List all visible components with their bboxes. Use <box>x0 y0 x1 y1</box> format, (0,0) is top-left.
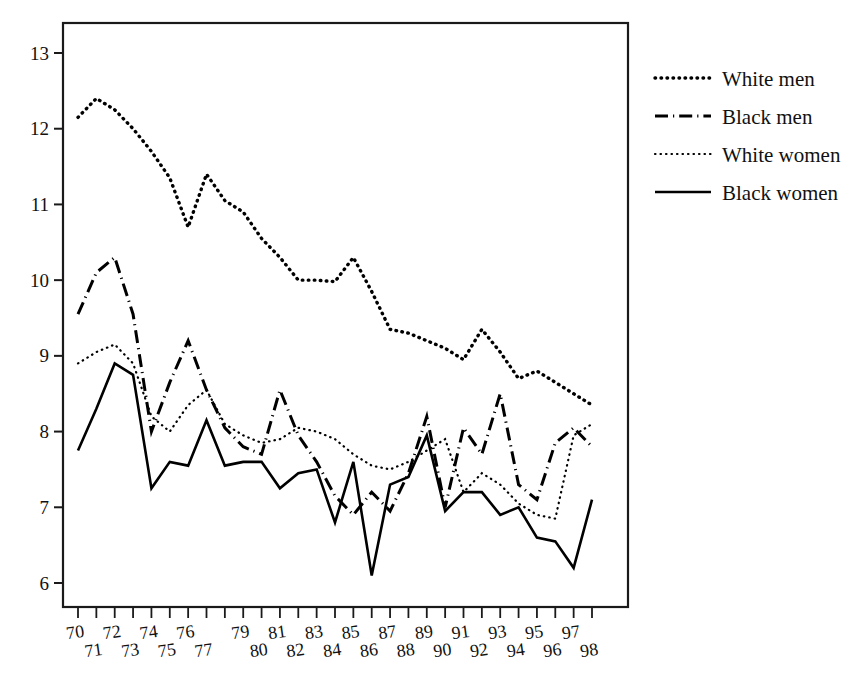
x-tick-label-97: 97 <box>561 621 582 643</box>
x-tick-label-73: 73 <box>120 639 141 661</box>
x-tick-label-81: 81 <box>267 621 288 643</box>
x-tick-label-75: 75 <box>157 639 178 661</box>
legend-label-black-men: Black men <box>722 105 813 129</box>
x-tick-label-91: 91 <box>450 621 471 643</box>
y-tick-label-11: 11 <box>31 194 49 215</box>
x-tick-label-80: 80 <box>248 639 269 661</box>
x-tick-label-88: 88 <box>395 639 416 661</box>
x-tick-label-76: 76 <box>175 621 196 643</box>
x-tick-label-92: 92 <box>469 639 490 661</box>
x-tick-label-85: 85 <box>340 621 361 643</box>
x-tick-label-96: 96 <box>542 639 563 661</box>
x-tick-label-93: 93 <box>487 621 508 643</box>
x-tick-label-98: 98 <box>579 639 600 661</box>
y-tick-label-10: 10 <box>30 270 49 291</box>
y-tick-label-6: 6 <box>40 573 50 594</box>
x-tick-label-87: 87 <box>377 621 398 643</box>
x-tick-label-77: 77 <box>193 639 214 661</box>
x-tick-label-84: 84 <box>322 639 343 661</box>
legend-label-white-women: White women <box>722 143 841 167</box>
x-tick-label-71: 71 <box>83 639 104 661</box>
chart-background <box>0 0 868 675</box>
x-tick-label-82: 82 <box>285 639 306 661</box>
x-tick-label-83: 83 <box>304 621 325 643</box>
y-tick-label-8: 8 <box>40 421 50 442</box>
y-tick-label-7: 7 <box>40 497 50 518</box>
x-tick-label-79: 79 <box>230 621 251 643</box>
y-tick-label-13: 13 <box>30 43 49 64</box>
x-tick-label-86: 86 <box>359 639 380 661</box>
y-tick-label-12: 12 <box>30 118 49 139</box>
legend-label-white-men: White men <box>722 67 815 91</box>
x-tick-label-72: 72 <box>102 621 123 643</box>
line-chart: 131211109876 707172737475767779808182838… <box>0 0 868 675</box>
x-tick-label-90: 90 <box>432 639 453 661</box>
chart-page: 131211109876 707172737475767779808182838… <box>0 0 868 675</box>
x-tick-label-95: 95 <box>524 621 545 643</box>
y-tick-label-9: 9 <box>40 345 50 366</box>
x-tick-label-74: 74 <box>138 621 159 643</box>
x-tick-label-70: 70 <box>65 621 86 643</box>
legend-label-black-women: Black women <box>722 181 839 205</box>
x-tick-label-89: 89 <box>414 621 435 643</box>
x-tick-label-94: 94 <box>505 639 526 661</box>
